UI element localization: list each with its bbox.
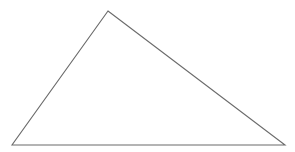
triangle-figure: [0, 0, 295, 152]
figure-canvas: [0, 0, 295, 152]
canvas-background: [0, 0, 295, 152]
